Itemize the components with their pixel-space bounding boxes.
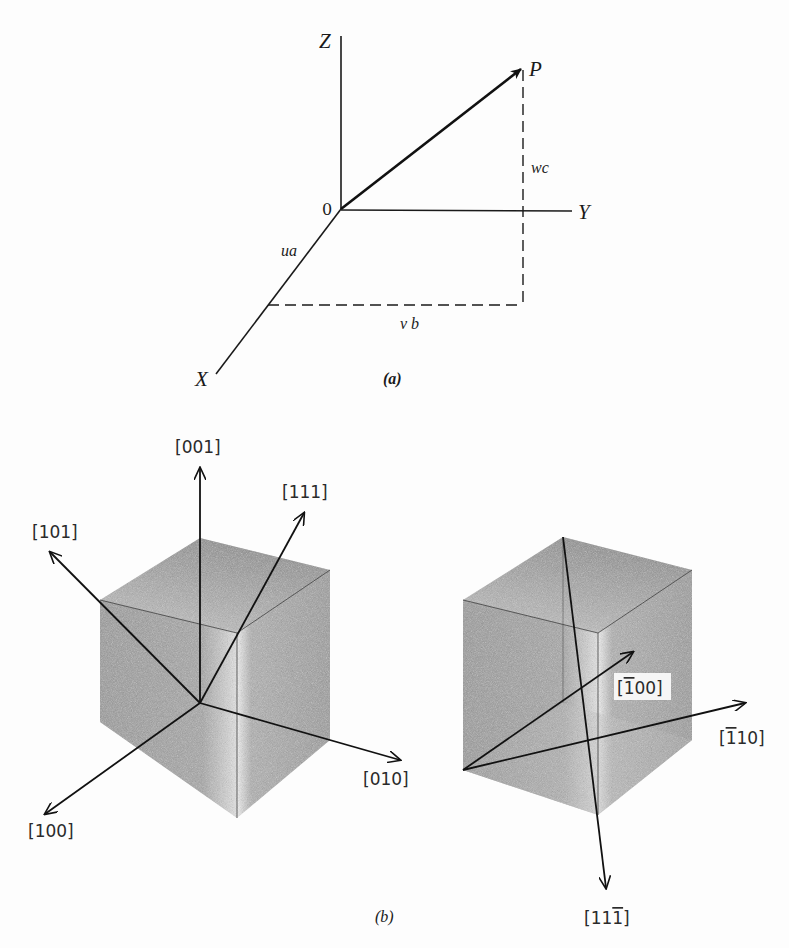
y-axis-label: Y bbox=[578, 200, 592, 224]
cube-right: [100] [110] [111] bbox=[463, 537, 765, 928]
label-11neg1: [111] bbox=[584, 908, 630, 928]
label-neg100: [100] bbox=[617, 678, 663, 698]
overbar-digit: 1 bbox=[624, 678, 635, 698]
z-axis-label: Z bbox=[319, 29, 331, 53]
x-axis bbox=[216, 209, 341, 374]
crystal-directions-figure: Z Y X 0 P wc ua v b (a) [001] [111] [101… bbox=[0, 0, 789, 948]
vb-label: v b bbox=[400, 315, 419, 332]
x-axis-label: X bbox=[194, 367, 209, 391]
cube-left: [001] [111] [101] [010] [100] bbox=[28, 437, 409, 841]
overbar-digit: 1 bbox=[726, 728, 737, 748]
overbar-digit: 1 bbox=[612, 908, 623, 928]
label-100: [100] bbox=[28, 821, 74, 841]
label-101: [101] bbox=[32, 522, 78, 542]
label-010: [010] bbox=[363, 769, 409, 789]
caption-a: (a) bbox=[383, 370, 402, 388]
part-a-coordinate-diagram: Z Y X 0 P wc ua v b (a) bbox=[194, 29, 592, 391]
y-axis bbox=[341, 210, 572, 211]
vector-op bbox=[341, 69, 521, 209]
cube-left-front-left-face bbox=[100, 600, 237, 818]
label-neg110: [110] bbox=[719, 728, 765, 748]
label-111: [111] bbox=[282, 482, 328, 502]
caption-b: (b) bbox=[375, 908, 394, 926]
point-p-label: P bbox=[528, 57, 542, 81]
label-001: [001] bbox=[175, 437, 221, 457]
wc-label: wc bbox=[531, 159, 549, 176]
ua-label: ua bbox=[281, 242, 297, 259]
origin-label: 0 bbox=[322, 200, 332, 219]
